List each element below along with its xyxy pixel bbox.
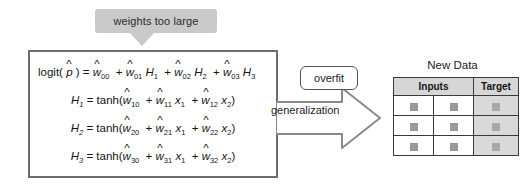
value-placeholder-icon: [410, 143, 418, 151]
table-row: [394, 116, 519, 136]
diagram-canvas: weights too large logit( p ) = w00 + w01…: [0, 0, 523, 189]
weights-callout-label: weights too large: [114, 15, 199, 27]
cell-input-2: [434, 116, 474, 136]
new-data-table-body: [394, 96, 519, 156]
cell-input-1: [394, 116, 434, 136]
value-placeholder-icon: [492, 103, 500, 111]
right-block-arrow-icon: [276, 86, 382, 150]
table-row: [394, 136, 519, 156]
logit-equation: logit( p ) = w00 + w01 H1 + w02 H2 + w03…: [38, 67, 255, 81]
value-placeholder-icon: [450, 103, 458, 111]
table-row: [394, 96, 519, 116]
cell-target: [474, 136, 519, 156]
model-equations-list: logit( p ) = w00 + w01 H1 + w02 H2 + w03…: [28, 50, 278, 178]
value-placeholder-icon: [492, 123, 500, 131]
generalization-label: generalization: [271, 104, 340, 116]
new-data-table-head: Inputs Target: [394, 78, 519, 96]
hidden-unit-3-equation: H3 = tanh(w30 + w31 x1 + w32 x2): [71, 151, 236, 165]
column-header-inputs: Inputs: [394, 78, 474, 96]
value-placeholder-icon: [492, 143, 500, 151]
value-placeholder-icon: [410, 123, 418, 131]
value-placeholder-icon: [450, 143, 458, 151]
overfit-badge: overfit: [300, 66, 358, 90]
cell-input-2: [434, 136, 474, 156]
cell-input-2: [434, 96, 474, 116]
column-header-target: Target: [474, 78, 519, 96]
hidden-unit-1-equation: H1 = tanh(w10 + w11 x1 + w12 x2): [71, 95, 235, 109]
value-placeholder-icon: [410, 103, 418, 111]
cell-target: [474, 116, 519, 136]
new-data-title: New Data: [390, 59, 515, 71]
cell-input-1: [394, 136, 434, 156]
cell-input-1: [394, 96, 434, 116]
weights-callout-bubble: weights too large: [95, 9, 217, 33]
overfit-label: overfit: [314, 72, 344, 84]
value-placeholder-icon: [450, 123, 458, 131]
cell-target: [474, 96, 519, 116]
table-header-row: Inputs Target: [394, 78, 519, 96]
new-data-table: Inputs Target: [393, 77, 519, 156]
callout-tail-icon: [129, 32, 155, 46]
hidden-unit-2-equation: H2 = tanh(w20 + w21 x1 + w22 x2): [71, 123, 236, 137]
